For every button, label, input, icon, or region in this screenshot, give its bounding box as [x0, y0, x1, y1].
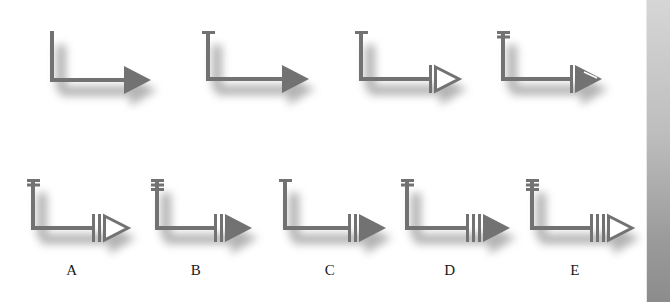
- vertical-stem: [359, 31, 363, 81]
- top-tick-bar: [151, 179, 164, 182]
- horizontal-line: [206, 77, 282, 81]
- crossbar: [466, 214, 469, 242]
- crossbar: [478, 214, 481, 242]
- option-label-e: E: [570, 262, 580, 279]
- crossbar: [92, 214, 95, 242]
- diagram-canvas: ABCDE: [0, 0, 670, 302]
- top-tick-bar: [151, 184, 164, 187]
- top-tick-bar: [526, 184, 539, 187]
- gray-side-strip: [646, 0, 670, 302]
- top-tick-bar: [526, 188, 539, 191]
- top-tick-bar: [401, 184, 414, 187]
- top-tick-bar: [497, 31, 510, 34]
- vertical-stem: [155, 179, 159, 230]
- option-label-c: C: [325, 262, 336, 279]
- top-tick-bar: [151, 188, 164, 191]
- crossbar: [214, 214, 217, 242]
- option-label-a: A: [66, 262, 77, 279]
- top-tick-bar: [526, 179, 539, 182]
- vertical-stem: [283, 179, 287, 230]
- crossbar: [98, 214, 101, 242]
- crossbar: [429, 65, 432, 93]
- vertical-stem: [206, 31, 210, 81]
- crossbar: [220, 214, 223, 242]
- option-label-b: B: [191, 262, 202, 279]
- top-tick-bar: [355, 31, 368, 34]
- top-tick-bar: [279, 179, 292, 182]
- crossbar: [472, 214, 475, 242]
- crossbar: [348, 214, 351, 242]
- vertical-stem: [50, 31, 54, 82]
- crossbar: [354, 214, 357, 242]
- horizontal-line: [405, 226, 466, 230]
- arrow-notation-diagram: [0, 0, 670, 302]
- crossbar: [602, 214, 605, 242]
- option-label-d: D: [444, 262, 455, 279]
- vertical-stem: [405, 179, 409, 230]
- crossbar: [596, 214, 599, 242]
- top-tick-bar: [497, 36, 510, 39]
- top-tick-bar: [401, 179, 414, 182]
- horizontal-line: [50, 78, 124, 82]
- top-tick-bar: [27, 179, 40, 182]
- horizontal-line: [359, 77, 429, 81]
- horizontal-line: [501, 77, 570, 81]
- horizontal-line: [155, 226, 214, 230]
- top-tick-bar: [202, 31, 215, 34]
- horizontal-line: [31, 226, 92, 230]
- horizontal-line: [283, 226, 348, 230]
- horizontal-line: [530, 226, 590, 230]
- crossbar: [570, 65, 573, 93]
- vertical-stem: [530, 179, 534, 230]
- crossbar: [590, 214, 593, 242]
- top-tick-bar: [27, 184, 40, 187]
- vertical-stem: [31, 179, 35, 230]
